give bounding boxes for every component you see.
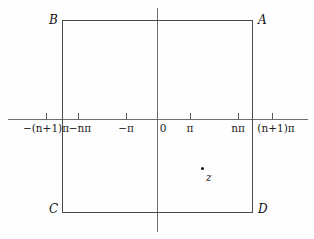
- tick-label-neg-pi: −π: [118, 123, 134, 134]
- point-z-dot: [201, 167, 204, 170]
- point-z-label: z: [206, 172, 212, 183]
- vertex-label-b: B: [49, 14, 58, 26]
- vertex-label-a: A: [258, 14, 267, 26]
- contour-rectangle: [62, 20, 253, 213]
- tick-mark-neg-n-plus-1-pi: [46, 113, 47, 120]
- complex-plane-figure: −(n+1)π −nπ −π 0 π nπ (n+1)π B A C D z: [0, 0, 314, 239]
- tick-mark-neg-n-pi: [78, 113, 79, 120]
- tick-label-n-pi: nπ: [231, 123, 245, 134]
- vertex-label-d: D: [258, 203, 268, 215]
- tick-mark-neg-pi: [126, 113, 127, 120]
- vertex-label-c: C: [49, 203, 58, 215]
- tick-label-neg-n-pi: −nπ: [69, 123, 91, 134]
- tick-label-n-plus-1-pi: (n+1)π: [257, 123, 294, 134]
- tick-label-origin: 0: [160, 123, 167, 134]
- tick-mark-n-plus-1-pi: [272, 113, 273, 120]
- tick-mark-pi: [190, 113, 191, 120]
- tick-label-neg-n-plus-1-pi: −(n+1)π: [23, 123, 69, 134]
- tick-mark-n-pi: [238, 113, 239, 120]
- tick-label-pi: π: [187, 123, 194, 134]
